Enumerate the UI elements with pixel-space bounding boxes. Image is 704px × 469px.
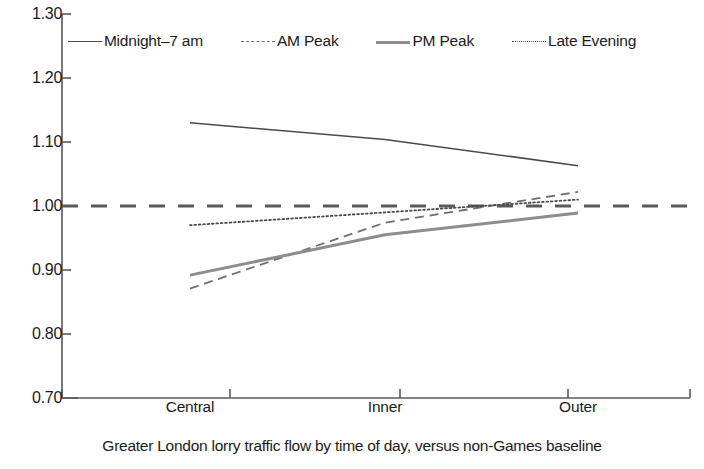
y-axis-label-0.8: 0.80	[2, 325, 62, 343]
plot-area	[0, 0, 704, 469]
x-axis-ticks	[62, 389, 568, 398]
chart-figure: Midnight–7 am AM Peak PM Peak Late Eveni…	[0, 0, 704, 469]
x-axis-label-inner: Inner	[368, 398, 402, 416]
chart-caption: Greater London lorry traffic flow by tim…	[0, 437, 704, 455]
series-line-midnight-7-am	[190, 123, 578, 166]
series-line-pm-peak	[190, 213, 578, 275]
series-line-late-evening	[190, 200, 578, 226]
y-axis-label-1.3: 1.30	[2, 5, 62, 23]
x-axis-label-central: Central	[166, 398, 215, 416]
y-axis-label-1: 1.00	[2, 197, 62, 215]
y-axis-label-1.2: 1.20	[2, 69, 62, 87]
y-axis-label-1.1: 1.10	[2, 133, 62, 151]
y-axis-label-0.9: 0.90	[2, 261, 62, 279]
y-axis-label-0.7: 0.70	[2, 389, 62, 407]
x-axis-label-outer: Outer	[559, 398, 597, 416]
